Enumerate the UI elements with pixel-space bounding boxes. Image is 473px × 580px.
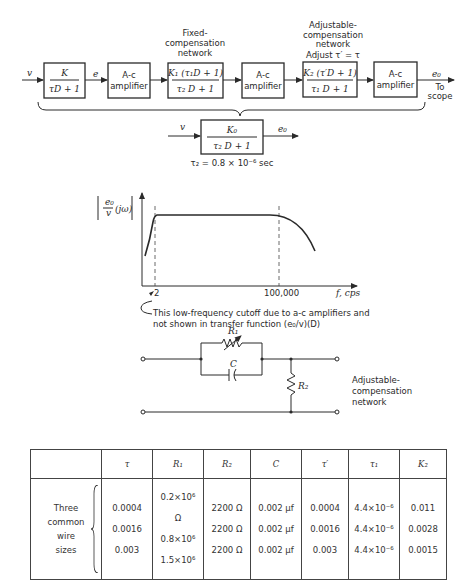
amplifier-3-line2: amplifier [377, 80, 415, 90]
cell-r1-r1: 0.2×10⁶ Ω [157, 487, 199, 529]
x-axis-label: f, cps [335, 288, 361, 298]
header-tau-prime: τ′ [302, 450, 349, 479]
row-group-label: Three common wire sizes [31, 479, 102, 580]
cell-r1-tau-prime: 0.0004 [306, 498, 344, 519]
annotation-line1: This low-frequency cutoff due to a-c amp… [152, 308, 370, 318]
c-label: C [230, 359, 237, 369]
equiv-output-e0: e₀ [278, 124, 287, 134]
adjustable-compensation-block: K₂ (τ′D + 1) τ₁ D + 1 [302, 62, 357, 97]
row-group-label-line2: common [33, 515, 99, 529]
cell-r2-c: 0.002 μf [255, 519, 297, 540]
signal-e-label: e [93, 69, 98, 79]
header-k2: K₂ [400, 450, 447, 479]
header-c: C [251, 450, 302, 479]
tau2-note: τ₂ = 0.8 × 10⁻⁶ sec [191, 158, 274, 168]
cell-r3-tau: 0.003 [106, 540, 148, 561]
equiv-input-v: v [180, 122, 185, 132]
svg-text:Fixed-: Fixed- [182, 28, 207, 38]
header-tau1: τ₁ [349, 450, 400, 479]
svg-text:Adjustable-: Adjustable- [309, 20, 357, 30]
cell-r2-r1: 0.8×10⁶ [157, 529, 199, 550]
svg-text:network: network [316, 39, 351, 49]
tick-label-100000: 100,000 [264, 288, 299, 298]
equiv-numerator: K₀ [226, 125, 238, 135]
adjustable-numerator: K₂ (τ′D + 1) [302, 68, 357, 78]
output-terminal-bottom [335, 410, 339, 414]
plant-block: K τD + 1 [44, 63, 85, 98]
cell-r3-c: 0.002 μf [255, 540, 297, 561]
r2-label: R₂ [297, 381, 309, 391]
parameter-table: τ R₁ R₂ C τ′ τ₁ K₂ Three common wire siz… [30, 449, 447, 580]
equivalent-block-diagram: v K₀ τ₂ D + 1 e₀ τ₂ = 0.8 × 10⁻⁶ sec [168, 120, 298, 168]
col-r2: 2200 Ω 2200 Ω 2200 Ω [204, 479, 251, 580]
amplifier-1-block: A-c amplifier [108, 63, 150, 98]
plant-numerator: K [60, 68, 69, 78]
row-group-brace [91, 485, 99, 573]
plant-denominator: τD + 1 [49, 84, 80, 94]
equiv-denominator: τ₂ D + 1 [213, 141, 251, 151]
r1-label: R₁ [227, 326, 238, 336]
ylabel-numerator: e₀ [105, 197, 114, 207]
svg-text:compensation: compensation [165, 38, 225, 48]
cell-r3-k2: 0.0015 [404, 540, 442, 561]
circuit-caption-2: compensation [352, 386, 412, 396]
cell-r3-tau1: 4.4×10⁻⁶ [353, 540, 395, 561]
cell-r2-tau: 0.0016 [106, 519, 148, 540]
cell-r1-r2: 2200 Ω [208, 498, 246, 519]
col-r1: 0.2×10⁶ Ω 0.8×10⁶ 1.5×10⁶ [153, 479, 204, 580]
svg-text:Adjust τ′ = τ: Adjust τ′ = τ [306, 50, 360, 60]
col-k2: 0.011 0.0028 0.0015 [400, 479, 447, 580]
amplifier-2-line1: A-c [256, 70, 270, 80]
cell-r1-tau: 0.0004 [106, 498, 148, 519]
circuit-caption-3: network [352, 397, 387, 407]
row-group-label-line3: wire [33, 529, 99, 543]
table-header-row: τ R₁ R₂ C τ′ τ₁ K₂ [31, 450, 447, 479]
col-tau1: 4.4×10⁻⁶ 4.4×10⁻⁶ 4.4×10⁻⁶ [349, 479, 400, 580]
cell-r1-k2: 0.011 [404, 498, 442, 519]
output-terminal-top [335, 357, 339, 361]
fixed-denominator: τ₂ D + 1 [177, 84, 215, 94]
output-e0-label: e₀ [432, 69, 441, 79]
cell-r2-tau-prime: 0.0016 [306, 519, 344, 540]
amplifier-2-line2: amplifier [244, 81, 282, 91]
tick-label-2: 2 [154, 288, 159, 298]
header-r1: R₁ [153, 450, 204, 479]
annotation-pointer [141, 301, 152, 314]
row-group-label-line4: sizes [33, 543, 99, 557]
cell-r1-c: 0.002 μf [255, 498, 297, 519]
table-row-group: Three common wire sizes 0.0004 0.0016 0.… [31, 479, 447, 580]
diagram-canvas: v K τD + 1 e A-c amplifier Fixed- compen… [0, 0, 473, 445]
svg-text:network: network [178, 48, 213, 58]
block-diagram: v K τD + 1 e A-c amplifier Fixed- compen… [22, 20, 454, 116]
header-blank [31, 450, 102, 479]
ylabel-argument: (jω) [115, 204, 133, 214]
fixed-numerator: K₁ (τ₁D + 1) [167, 68, 223, 78]
cell-r3-r1: 1.5×10⁶ [157, 550, 199, 571]
cell-r2-r2: 2200 Ω [208, 519, 246, 540]
fixed-compensation-block: K₁ (τ₁D + 1) τ₂ D + 1 [167, 63, 223, 98]
header-r2: R₂ [204, 450, 251, 479]
col-c: 0.002 μf 0.002 μf 0.002 μf [251, 479, 302, 580]
row-group-label-line1: Three [33, 501, 99, 515]
cell-r2-k2: 0.0028 [404, 519, 442, 540]
to-scope-line2: scope [428, 91, 453, 101]
adjustable-denominator: τ₁ D + 1 [311, 84, 349, 94]
adjustable-compensation-caption: Adjustable- compensation network Adjust … [303, 20, 363, 60]
fixed-compensation-caption: Fixed- compensation network [165, 28, 225, 58]
r2-resistor-icon [287, 373, 295, 395]
amplifier-1-line2: amplifier [110, 81, 148, 91]
col-tau: 0.0004 0.0016 0.003 [102, 479, 153, 580]
input-v-label: v [27, 68, 32, 78]
amplifier-1-line1: A-c [122, 70, 136, 80]
cell-r3-r2: 2200 Ω [208, 540, 246, 561]
grouping-brace [38, 102, 425, 116]
circuit-caption-1: Adjustable- [352, 375, 400, 385]
variable-arrow-icon [224, 336, 241, 350]
amplifier-2-block: A-c amplifier [242, 63, 284, 98]
response-curve [145, 215, 315, 256]
adjustable-compensation-circuit: R₁ C R₂ Adjustable- compensation network [141, 326, 412, 414]
frequency-response-plot: e₀ v (jω) 2 100,000 f, cps This low-freq… [98, 193, 370, 329]
amplifier-3-block: A-c amplifier [374, 62, 417, 97]
input-terminal-top [141, 357, 145, 361]
cell-r2-tau1: 4.4×10⁻⁶ [353, 519, 395, 540]
